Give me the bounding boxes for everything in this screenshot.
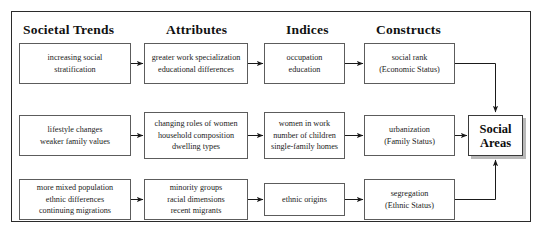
node-text: minority groupsracial dimensionsrecent m…	[147, 182, 245, 218]
node-text: increasing socialstratification	[22, 52, 128, 76]
column-header-indices: Indices	[286, 22, 329, 38]
node-trend-family[interactable]: lifestyle changesweaker family values	[19, 115, 131, 156]
node-indices-economic[interactable]: occupationeducation	[264, 43, 345, 84]
node-trend-economic[interactable]: increasing socialstratification	[19, 43, 131, 84]
node-text: lifestyle changesweaker family values	[22, 124, 128, 148]
node-text: greater work specializationeducational d…	[147, 52, 245, 76]
node-attributes-ethnic[interactable]: minority groupsracial dimensionsrecent m…	[144, 179, 248, 220]
node-attributes-economic[interactable]: greater work specializationeducational d…	[144, 43, 248, 84]
node-trend-ethnic[interactable]: more mixed populationethnic differencesc…	[19, 179, 131, 220]
column-header-attributes: Attributes	[166, 22, 227, 38]
node-construct-family[interactable]: urbanization(Family Status)	[364, 115, 455, 156]
node-text: changing roles of womenhousehold composi…	[147, 118, 245, 154]
node-construct-ethnic[interactable]: segregation(Ethnic Status)	[364, 179, 455, 220]
node-text: segregation(Ethnic Status)	[367, 188, 452, 212]
node-text: SocialAreas	[480, 122, 512, 150]
node-social-areas[interactable]: SocialAreas	[468, 115, 523, 156]
node-text: ethnic origins	[267, 194, 342, 206]
node-text: social rank(Economic Status)	[367, 52, 452, 76]
node-indices-family[interactable]: women in worknumber of childrensingle-fa…	[264, 112, 345, 159]
node-text: urbanization(Family Status)	[367, 124, 452, 148]
node-attributes-family[interactable]: changing roles of womenhousehold composi…	[144, 112, 248, 159]
node-construct-economic[interactable]: social rank(Economic Status)	[364, 43, 455, 84]
diagram-canvas: Societal Trends Attributes Indices Const…	[0, 0, 547, 237]
node-text: women in worknumber of childrensingle-fa…	[267, 118, 342, 154]
column-header-constructs: Constructs	[376, 22, 441, 38]
node-indices-ethnic[interactable]: ethnic origins	[264, 183, 345, 216]
column-header-societal-trends: Societal Trends	[23, 22, 114, 38]
node-text: more mixed populationethnic differencesc…	[22, 182, 128, 218]
node-text: occupationeducation	[267, 52, 342, 76]
